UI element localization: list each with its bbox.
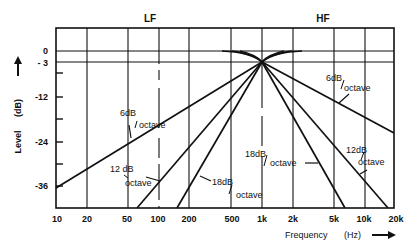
hf12-label-bottom: octave bbox=[358, 157, 385, 167]
hf6-label-top: 6dB bbox=[326, 73, 342, 83]
x-axis-labels: 10 20 50 100 200 500 1k 2k 5k 10k 20k bbox=[52, 214, 405, 224]
x-tick-50: 50 bbox=[122, 214, 132, 224]
x-tick-200: 200 bbox=[181, 214, 196, 224]
x-tick-100: 100 bbox=[150, 214, 165, 224]
annotations: 6dB octave 12 dB octave 18dB octave 18dB… bbox=[110, 73, 385, 200]
x-tick-1k: 1k bbox=[257, 214, 268, 224]
y-tick-36: -36 bbox=[35, 181, 48, 191]
y-axis-label: Level bbox=[13, 130, 23, 153]
y-tick-0: 0 bbox=[43, 46, 48, 56]
y-unit-label: (dB) bbox=[13, 99, 23, 117]
crossover-slope-chart: LF HF bbox=[0, 0, 406, 249]
y-axis-title: (dB) Level bbox=[13, 56, 23, 154]
hf18-label-top: 18dB bbox=[245, 149, 266, 159]
y-tick-12: -12 bbox=[35, 92, 48, 102]
x-unit-label: (Hz) bbox=[344, 230, 361, 240]
lf18-label-top: 18dB bbox=[212, 177, 233, 187]
right-arrow-icon bbox=[372, 231, 396, 239]
y-axis-labels: 0 - 3 -12 -24 -36 bbox=[35, 46, 48, 191]
hf6-label-bottom: octave bbox=[344, 83, 371, 93]
lf18-label-bottom: octave bbox=[236, 190, 263, 200]
lf12-label-top: 12 dB bbox=[110, 164, 134, 174]
hf-region-label: HF bbox=[316, 13, 329, 24]
hf18-label-bottom: octave bbox=[270, 158, 297, 168]
x-tick-5k: 5k bbox=[329, 214, 340, 224]
y-tick-24: -24 bbox=[35, 137, 48, 147]
lf-region-label: LF bbox=[144, 13, 156, 24]
lf6-label-top: 6dB bbox=[120, 108, 136, 118]
lf12-label-bottom: octave bbox=[125, 178, 152, 188]
lf6-label-bottom: octave bbox=[139, 120, 166, 130]
x-tick-20k: 20k bbox=[388, 214, 404, 224]
up-arrow-icon bbox=[14, 56, 22, 76]
lf-12db-line bbox=[137, 62, 262, 208]
x-axis-label: Frequency bbox=[285, 230, 328, 240]
x-tick-500: 500 bbox=[224, 214, 239, 224]
x-tick-20: 20 bbox=[82, 214, 92, 224]
x-tick-10: 10 bbox=[52, 214, 62, 224]
x-tick-2k: 2k bbox=[288, 214, 299, 224]
x-axis-title: Frequency (Hz) bbox=[285, 230, 396, 240]
y-tick-3: - 3 bbox=[37, 58, 48, 68]
x-tick-10k: 10k bbox=[356, 214, 372, 224]
